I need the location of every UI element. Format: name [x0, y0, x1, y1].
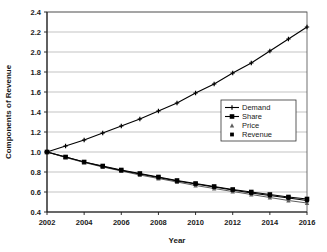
chart-container: 0.40.60.81.01.21.41.61.82.02.22.42002200… — [0, 0, 327, 252]
data-point-marker — [82, 160, 86, 164]
data-point-marker — [175, 179, 179, 183]
x-tick-label: 2014 — [262, 218, 280, 227]
x-tick-label: 2016 — [299, 218, 316, 227]
line-chart: 0.40.60.81.01.21.41.61.82.02.22.42002200… — [0, 0, 327, 252]
y-tick-label: 2.4 — [31, 8, 42, 17]
legend-label: Share — [242, 112, 262, 121]
x-tick-label: 2006 — [113, 218, 130, 227]
data-point-marker — [231, 188, 235, 192]
legend-label: Price — [242, 121, 259, 130]
data-point-marker — [212, 185, 216, 189]
data-point-marker — [194, 182, 198, 186]
y-tick-label: 1.4 — [31, 108, 42, 117]
x-tick-label: 2010 — [187, 218, 204, 227]
data-point-marker — [193, 91, 197, 95]
data-point-marker — [63, 144, 67, 148]
data-point-marker — [230, 114, 235, 119]
data-point-marker — [101, 131, 105, 135]
y-tick-label: 1.0 — [31, 148, 41, 157]
data-point-marker — [45, 150, 49, 154]
y-axis-title: Components of Revenue — [4, 64, 13, 159]
y-tick-label: 0.4 — [31, 208, 42, 217]
data-point-marker — [101, 165, 105, 169]
data-point-marker — [230, 133, 234, 137]
series-share — [45, 150, 310, 202]
y-tick-label: 2.2 — [31, 28, 41, 37]
data-point-marker — [119, 124, 123, 128]
data-point-marker — [305, 199, 309, 203]
x-tick-label: 2002 — [39, 218, 56, 227]
y-tick-label: 2.0 — [31, 48, 41, 57]
data-point-marker — [156, 109, 160, 113]
x-tick-label: 2012 — [224, 218, 241, 227]
data-point-marker — [138, 172, 142, 176]
data-point-marker — [119, 169, 123, 173]
data-point-marker — [287, 196, 291, 200]
y-tick-label: 0.6 — [31, 188, 41, 197]
x-tick-label: 2008 — [150, 218, 167, 227]
x-tick-label: 2004 — [76, 218, 94, 227]
data-point-marker — [268, 194, 272, 198]
y-tick-label: 1.8 — [31, 68, 41, 77]
x-axis-title: Year — [169, 236, 186, 245]
data-point-marker — [82, 138, 86, 142]
y-tick-label: 1.6 — [31, 88, 41, 97]
data-point-marker — [138, 117, 142, 121]
data-point-marker — [64, 155, 68, 159]
y-tick-label: 0.8 — [31, 168, 41, 177]
series-revenue — [45, 150, 309, 202]
legend-label: Revenue — [242, 130, 272, 139]
y-tick-label: 1.2 — [31, 128, 41, 137]
legend-label: Demand — [242, 103, 270, 112]
data-point-marker — [249, 191, 253, 195]
data-point-marker — [175, 101, 179, 105]
data-point-marker — [157, 176, 161, 180]
